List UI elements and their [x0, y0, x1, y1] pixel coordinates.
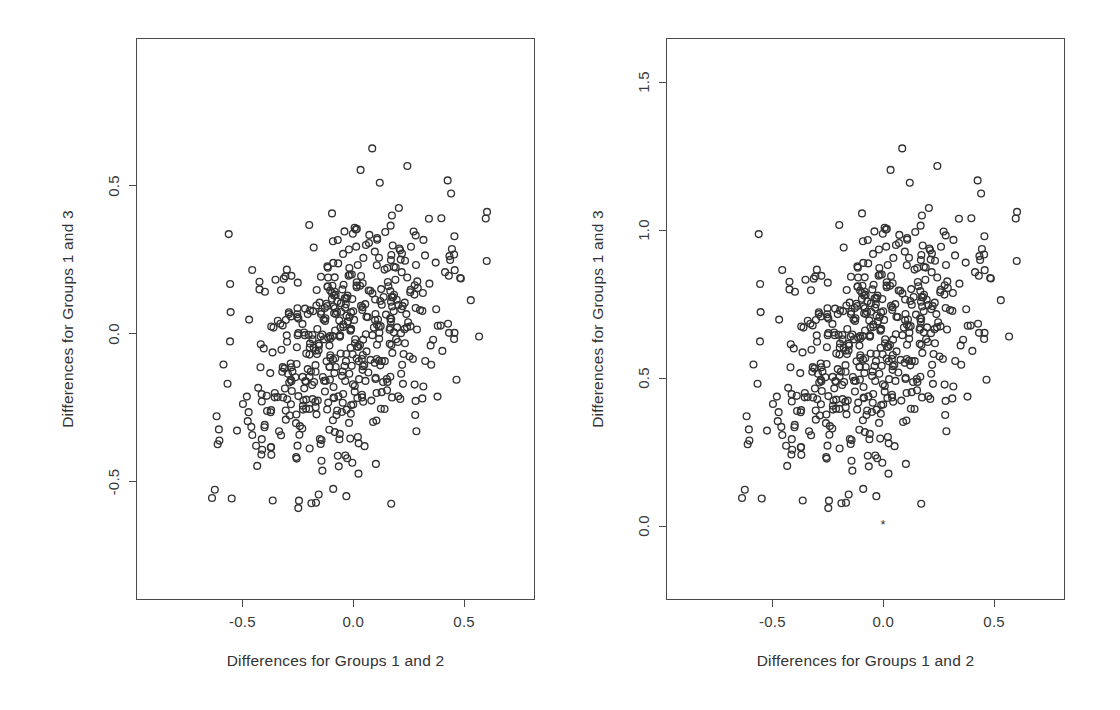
y-tick-label: 1.5: [635, 72, 652, 93]
y-tick-label: 0.5: [105, 175, 122, 196]
x-tick: [994, 600, 995, 607]
plot-box-left: [136, 38, 535, 600]
x-tick-label: -0.5: [759, 613, 786, 630]
scatter-points-right: *: [667, 39, 1064, 599]
y-tick-label: -0.5: [105, 468, 122, 495]
y-axis-title-right: Differences for Groups 1 and 3: [589, 210, 607, 428]
scatter-figure: -0.50.00.5-0.50.00.5 Differences for Gro…: [0, 0, 1120, 710]
x-tick: [772, 600, 773, 607]
x-tick: [353, 600, 354, 607]
x-tick: [883, 600, 884, 607]
y-tick: [129, 185, 136, 186]
y-tick: [129, 333, 136, 334]
scatter-points-left: [137, 39, 534, 599]
y-tick-label: 0.5: [635, 367, 652, 388]
y-tick: [659, 526, 666, 527]
x-tick-label: 0.0: [342, 613, 363, 630]
panel-left: -0.50.00.5-0.50.00.5 Differences for Gro…: [0, 0, 560, 710]
x-axis-title-left: Differences for Groups 1 and 2: [227, 652, 445, 670]
y-tick: [659, 378, 666, 379]
y-tick: [659, 230, 666, 231]
plot-box-right: *: [666, 38, 1065, 600]
x-tick: [464, 600, 465, 607]
y-axis-title-left: Differences for Groups 1 and 3: [59, 210, 77, 428]
y-tick: [659, 82, 666, 83]
plot-surface-right: *: [667, 39, 1064, 599]
y-tick: [129, 481, 136, 482]
svg-text:*: *: [881, 517, 886, 532]
x-axis-title-right: Differences for Groups 1 and 2: [757, 652, 975, 670]
panel-right: * -0.50.00.50.00.51.01.5 Differences for…: [560, 0, 1120, 710]
y-tick-label: 0.0: [635, 515, 652, 536]
x-tick-label: 0.0: [872, 613, 893, 630]
x-tick-label: 0.5: [983, 613, 1004, 630]
x-tick: [242, 600, 243, 607]
x-tick-label: -0.5: [229, 613, 256, 630]
y-tick-label: 1.0: [635, 220, 652, 241]
y-tick-label: 0.0: [105, 323, 122, 344]
x-tick-label: 0.5: [453, 613, 474, 630]
plot-surface-left: [137, 39, 534, 599]
